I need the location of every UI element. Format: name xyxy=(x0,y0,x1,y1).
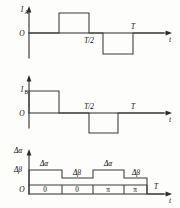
chart-ib: I B O T/2 T t xyxy=(19,75,172,133)
chart-delta-top-label-4: Δβ xyxy=(131,168,140,177)
chart-delta-block-label-3: π xyxy=(106,186,110,194)
waveform-svg: I A O T/2 T t I B O T/2 T t Δα xyxy=(0,0,180,208)
chart-ib-y-label: I xyxy=(20,85,24,94)
chart-delta-origin-label: O xyxy=(19,185,25,194)
chart-delta-y-axis-arrow xyxy=(27,149,32,155)
chart-ia-x-label: t xyxy=(169,35,172,44)
chart-delta-block-label-1: 0 xyxy=(43,186,47,194)
chart-ib-origin-label: O xyxy=(19,109,25,118)
chart-ia-origin-label: O xyxy=(19,29,25,38)
chart-delta-y-label-upper: Δα xyxy=(13,146,22,155)
chart-ib-y-axis-arrow xyxy=(27,75,32,81)
chart-delta-y-label-lower: Δβ xyxy=(13,165,22,174)
chart-delta: Δα Δβ O Δα Δβ Δα Δβ 0 0 π π T t xyxy=(13,146,172,205)
chart-ia-tick-t-half: T/2 xyxy=(84,37,94,45)
chart-delta-x-label: t xyxy=(169,196,172,205)
chart-ia-waveform xyxy=(29,13,164,54)
chart-ib-tick-t-half: T/2 xyxy=(84,103,94,111)
chart-ib-tick-t: T xyxy=(131,103,136,111)
chart-delta-tick-t: T xyxy=(154,183,159,191)
chart-ia-tick-t: T xyxy=(131,23,136,31)
chart-delta-block-label-4: π xyxy=(133,186,137,194)
chart-ia-y-label-subscript: A xyxy=(24,9,28,15)
chart-ib-waveform xyxy=(29,91,164,133)
chart-delta-block-label-2: 0 xyxy=(75,186,79,194)
chart-delta-top-label-1: Δα xyxy=(39,159,48,168)
chart-ib-x-label: t xyxy=(169,115,172,124)
waveform-figure: I A O T/2 T t I B O T/2 T t Δα xyxy=(0,0,180,208)
chart-delta-top-label-2: Δβ xyxy=(72,168,81,177)
chart-ia: I A O T/2 T t xyxy=(19,5,172,58)
chart-delta-blocks xyxy=(29,170,164,194)
chart-ib-y-label-subscript: B xyxy=(25,89,29,95)
chart-ia-y-label: I xyxy=(20,5,24,14)
chart-delta-top-label-3: Δα xyxy=(103,159,112,168)
